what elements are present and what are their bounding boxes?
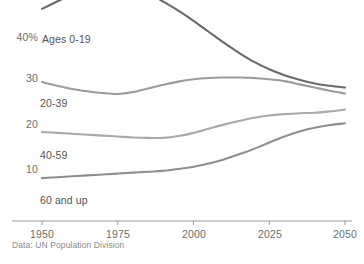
source-note: Data: UN Population Division bbox=[12, 240, 124, 250]
x-tick-label-1950: 1950 bbox=[30, 228, 54, 240]
x-tick-label-2000: 2000 bbox=[182, 228, 206, 240]
x-tick-label-2025: 2025 bbox=[258, 228, 282, 240]
y-tick-label-30: 30 bbox=[4, 72, 38, 84]
series-label-40-59: 40-59 bbox=[40, 149, 67, 161]
y-tick-label-40: 40% bbox=[4, 31, 38, 43]
series-label-60-and-up: 60 and up bbox=[40, 194, 88, 206]
series-line-60-and-up bbox=[42, 123, 345, 178]
y-tick-label-10: 10 bbox=[4, 163, 38, 175]
series-paths bbox=[42, 0, 345, 178]
series-line-40-59 bbox=[42, 110, 345, 139]
x-tick-label-1975: 1975 bbox=[106, 228, 130, 240]
x-axis bbox=[12, 221, 352, 225]
series-label-20-39: 20-39 bbox=[40, 97, 67, 109]
series-label-ages-0-19: Ages 0-19 bbox=[42, 33, 91, 45]
line-chart: 40% 30 20 10 1950 1975 2000 2025 2050 Ag… bbox=[0, 0, 364, 264]
y-tick-label-20: 20 bbox=[4, 118, 38, 130]
x-tick-label-2050: 2050 bbox=[333, 228, 357, 240]
